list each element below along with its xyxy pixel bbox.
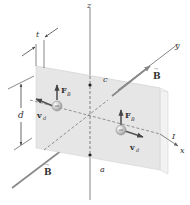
velocity-label-left: v bbox=[36, 110, 42, 120]
thickness-arrow-left bbox=[22, 47, 35, 56]
vector-arrow-top: → bbox=[153, 65, 159, 71]
slab-side bbox=[160, 88, 168, 174]
point-c-dot bbox=[88, 83, 91, 86]
point-a-label: a bbox=[100, 165, 105, 174]
y-axis-label: y bbox=[174, 41, 180, 50]
force-label-left-sub: B bbox=[66, 91, 71, 97]
thickness-arrow-right bbox=[45, 28, 58, 37]
force-label-right-sub: B bbox=[130, 116, 135, 122]
point-a-dot bbox=[88, 153, 91, 156]
height-ext-bottom bbox=[14, 138, 32, 150]
x-axis-label: x bbox=[180, 146, 185, 155]
point-c-label: c bbox=[103, 75, 108, 84]
velocity-label-right: v bbox=[129, 142, 135, 152]
vector-arrow-bottom: → bbox=[44, 161, 50, 167]
height-label: d bbox=[18, 110, 24, 120]
magnetic-field-label-top: B bbox=[153, 71, 161, 81]
velocity-label-right-sub: d bbox=[136, 147, 139, 153]
velocity-label-left-sub: d bbox=[43, 115, 46, 121]
hall-effect-diagram: z y B → c a x I B → F B v d F B v d t bbox=[0, 0, 190, 205]
magnetic-field-label-bottom: B bbox=[44, 167, 52, 177]
thickness-label: t bbox=[36, 30, 40, 39]
z-axis-label: z bbox=[86, 1, 92, 10]
current-label: I bbox=[171, 132, 176, 141]
